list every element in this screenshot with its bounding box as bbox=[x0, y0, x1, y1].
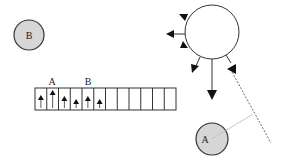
circle-a: A bbox=[196, 123, 228, 155]
cell-strip: A B bbox=[35, 76, 176, 110]
circle-a-label: A bbox=[201, 134, 209, 145]
big-circle bbox=[185, 5, 239, 59]
arrow-left-icon bbox=[166, 30, 174, 38]
arrowhead-icon bbox=[179, 14, 188, 21]
arrow-down-icon bbox=[207, 90, 217, 100]
arrow-down-left-icon bbox=[191, 64, 199, 73]
circle-b: B bbox=[14, 20, 44, 50]
strip-label-b: B bbox=[85, 76, 92, 87]
diagram-canvas: B A A B bbox=[0, 0, 285, 167]
strip-label-a: A bbox=[48, 76, 56, 87]
dashed-path bbox=[232, 72, 271, 143]
arrowhead-icon bbox=[227, 64, 236, 74]
circle-b-label: B bbox=[26, 30, 33, 41]
